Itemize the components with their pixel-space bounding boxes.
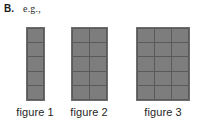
grid-square [90,72,106,85]
grid-square [90,57,106,70]
grid-square [138,29,154,42]
grid-square [155,57,171,70]
grid-square [172,86,188,99]
grid-square [155,43,171,56]
grid-square [172,43,188,56]
figure-caption-1: figure 1 [16,106,54,118]
grid-square [90,86,106,99]
figure-block-1: figure 1 [10,27,60,118]
grid-square [28,72,43,85]
square-grid-1 [26,27,45,101]
figure-sequence: figure 1 figure 2 figure 3 [0,0,211,134]
grid-square [138,57,154,70]
worksheet-figure-panel: B. e.g., figure 1 figure 2 figure 3 [0,0,211,134]
figure-block-3: figure 3 [129,27,197,118]
grid-square [28,43,43,56]
grid-square [73,43,89,56]
figure-block-2: figure 2 [64,27,114,118]
grid-square [73,72,89,85]
grid-square [28,86,43,99]
grid-square [138,43,154,56]
square-grid-2 [71,27,108,101]
grid-square [73,86,89,99]
grid-square [90,29,106,42]
grid-square [90,43,106,56]
grid-square [28,29,43,42]
grid-square [73,57,89,70]
grid-square [155,29,171,42]
grid-square [172,57,188,70]
grid-square [172,29,188,42]
grid-square [138,72,154,85]
grid-square [73,29,89,42]
grid-square [155,72,171,85]
figure-caption-3: figure 3 [144,106,182,118]
grid-square [28,57,43,70]
square-grid-3 [136,27,191,101]
grid-square [155,86,171,99]
grid-square [172,72,188,85]
grid-square [138,86,154,99]
figure-caption-2: figure 2 [70,106,108,118]
